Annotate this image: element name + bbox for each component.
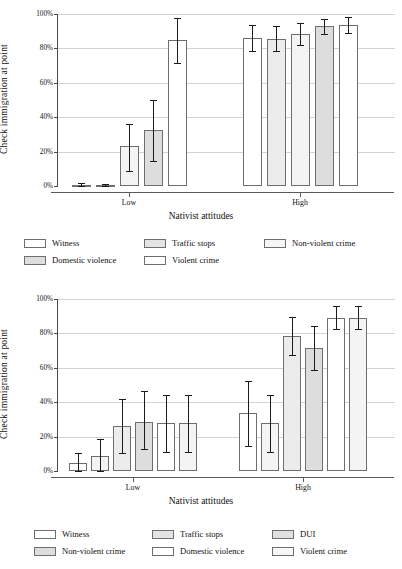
bar — [339, 25, 358, 186]
x-tick-mark — [129, 193, 130, 197]
error-bar-line — [324, 19, 325, 33]
error-bar-cap-lower — [249, 51, 256, 52]
x-tick-label: High — [292, 198, 308, 207]
error-bar-cap-lower — [97, 471, 104, 472]
legend-item[interactable]: Domestic violence — [144, 544, 264, 558]
x-tick-label: Low — [126, 483, 140, 492]
y-tick-label: 60% — [25, 79, 53, 87]
y-tick-label: 80% — [25, 329, 53, 337]
error-bar-cap-lower — [345, 33, 352, 34]
y-tick-mark — [54, 83, 57, 84]
error-bar-cap-upper — [119, 399, 126, 400]
bar — [283, 336, 301, 471]
legend-label: Witness — [52, 238, 79, 248]
legend-swatch-icon — [34, 530, 56, 539]
bar — [243, 38, 262, 186]
error-bar-cap-upper — [150, 100, 157, 101]
chart-2-legend: WitnessNon-violent crimeTraffic stopsDom… — [0, 527, 402, 558]
error-bar-cap-lower — [141, 449, 148, 450]
x-tick-mark — [300, 193, 301, 197]
error-bar-line — [248, 381, 249, 446]
error-bar-cap-lower — [289, 355, 296, 356]
error-bar-cap-lower — [119, 453, 126, 454]
x-tick-label: High — [295, 483, 311, 492]
error-bar-cap-upper — [345, 17, 352, 18]
error-bar-line — [300, 23, 301, 44]
legend-swatch-icon — [24, 239, 46, 248]
error-bar-cap-upper — [289, 317, 296, 318]
error-bar-cap-upper — [78, 183, 85, 184]
x-axis-line — [51, 192, 394, 193]
error-bar-cap-lower — [75, 471, 82, 472]
y-tick-mark — [54, 117, 57, 118]
error-bar-cap-lower — [273, 51, 280, 52]
x-tick-label: Low — [122, 198, 136, 207]
error-bar-line — [358, 306, 359, 329]
error-bar-line — [314, 326, 315, 370]
x-tick-mark — [133, 478, 134, 482]
error-bar-cap-upper — [126, 124, 133, 125]
legend-swatch-icon — [24, 256, 46, 265]
error-bar-cap-upper — [141, 391, 148, 392]
y-tick-label: 100% — [25, 10, 53, 18]
error-bar-cap-lower — [163, 452, 170, 453]
y-tick-label: 20% — [25, 148, 53, 156]
y-tick-mark — [54, 14, 57, 15]
error-bar-cap-lower — [311, 370, 318, 371]
figure-page: Check immigration at point 0%20%40%60%80… — [0, 0, 402, 569]
error-bar-line — [166, 395, 167, 451]
legend-label: Domestic violence — [52, 255, 116, 265]
y-tick-label: 40% — [25, 398, 53, 406]
chart-2-y-axis-title: Check immigration at point — [0, 299, 15, 469]
legend-item[interactable]: Domestic violence — [16, 253, 136, 267]
legend-item[interactable]: Non-violent crime — [256, 236, 386, 250]
error-bar-cap-lower — [126, 171, 133, 172]
legend-item[interactable]: Witness — [16, 236, 136, 250]
gridline — [58, 14, 395, 15]
gridline — [58, 299, 395, 300]
y-axis-line — [57, 299, 58, 472]
y-tick-mark — [54, 299, 57, 300]
error-bar-line — [122, 399, 123, 453]
error-bar-line — [276, 26, 277, 52]
error-bar-line — [100, 439, 101, 471]
legend-item[interactable]: Witness — [26, 527, 144, 541]
error-bar-line — [188, 395, 189, 452]
legend-label: Non-violent crime — [62, 546, 125, 556]
legend-label: Violent crime — [172, 255, 219, 265]
legend-label: Non-violent crime — [292, 238, 355, 248]
legend-label: Violent crime — [300, 546, 347, 556]
legend-label: Traffic stops — [180, 529, 223, 539]
chart-2-x-axis-title: Nativist attitudes — [0, 496, 402, 506]
error-bar-line — [348, 17, 349, 33]
error-bar-line — [78, 453, 79, 471]
error-bar-line — [270, 395, 271, 452]
error-bar-cap-upper — [355, 306, 362, 307]
error-bar-cap-lower — [185, 452, 192, 453]
y-tick-label: 40% — [25, 113, 53, 121]
legend-swatch-icon — [152, 547, 174, 556]
error-bar-line — [153, 100, 154, 161]
legend-item[interactable]: DUI — [264, 527, 376, 541]
bar — [327, 318, 345, 471]
error-bar-cap-lower — [267, 452, 274, 453]
error-bar-cap-upper — [75, 453, 82, 454]
y-tick-mark — [54, 471, 57, 472]
error-bar-cap-upper — [163, 395, 170, 396]
error-bar-cap-lower — [333, 329, 340, 330]
legend-item[interactable]: Non-violent crime — [26, 544, 144, 558]
legend-item[interactable]: Violent crime — [264, 544, 376, 558]
error-bar-line — [252, 25, 253, 51]
error-bar-cap-lower — [174, 63, 181, 64]
error-bar-cap-lower — [245, 446, 252, 447]
error-bar-cap-upper — [333, 306, 340, 307]
chart-1-legend: WitnessDomestic violenceTraffic stopsVio… — [0, 236, 402, 267]
legend-item[interactable]: Violent crime — [136, 253, 256, 267]
error-bar-line — [144, 391, 145, 450]
legend-item[interactable]: Traffic stops — [136, 236, 256, 250]
y-tick-mark — [54, 368, 57, 369]
legend-swatch-icon — [272, 547, 294, 556]
legend-item[interactable]: Traffic stops — [144, 527, 264, 541]
y-tick-label: 100% — [25, 295, 53, 303]
y-tick-label: 0% — [25, 467, 53, 475]
